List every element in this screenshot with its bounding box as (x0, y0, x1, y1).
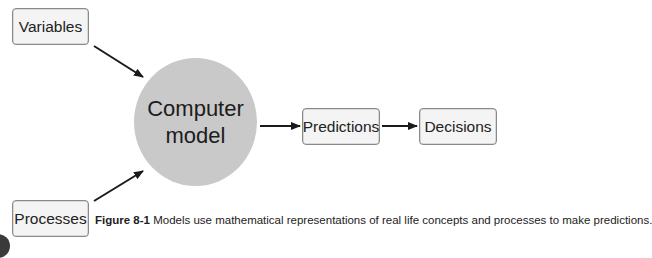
decisions-box: Decisions (419, 108, 497, 145)
model-label-line1: Computer (147, 95, 244, 122)
figure-caption-text: Models use mathematical representations … (150, 214, 652, 226)
predictions-box: Predictions (302, 108, 380, 145)
variables-label: Variables (19, 18, 82, 36)
decisions-label: Decisions (424, 118, 491, 136)
processes-label: Processes (14, 210, 86, 228)
processes-box: Processes (12, 200, 89, 237)
figure-number: Figure 8-1 (95, 214, 150, 226)
predictions-label: Predictions (303, 118, 380, 136)
computer-model-circle: Computer model (134, 58, 257, 186)
arrow-processes-to-model (94, 171, 143, 201)
variables-box: Variables (12, 8, 89, 45)
figure-caption: Figure 8-1 Models use mathematical repre… (95, 214, 652, 226)
model-label-line2: model (166, 122, 226, 149)
arrow-variables-to-model (94, 46, 143, 77)
page-corner-marker (0, 234, 10, 258)
